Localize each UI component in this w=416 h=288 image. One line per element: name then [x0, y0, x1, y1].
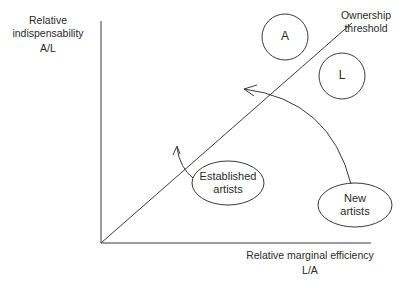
y-axis-label-line1: Relative	[4, 14, 92, 27]
node-established-line2: artists	[192, 183, 264, 196]
x-axis-label: Relative marginal efficiency	[230, 249, 390, 262]
node-established-line1: Established	[192, 170, 264, 183]
y-axis-label-line2: indispensability	[4, 27, 92, 40]
y-axis-unit: A/L	[4, 42, 92, 55]
node-established-label: Established artists	[192, 170, 264, 196]
ownership-threshold-line	[101, 23, 352, 243]
node-new-line2: artists	[320, 205, 390, 218]
x-axis-unit: L/A	[280, 264, 340, 277]
node-a-label: A	[270, 30, 300, 43]
threshold-label-line1: Ownership	[326, 9, 406, 22]
threshold-label: Ownership threshold	[326, 9, 406, 35]
y-axis-label: Relative indispensability	[4, 14, 92, 40]
arrow-established-head-icon	[173, 146, 180, 155]
node-new-line1: New	[320, 192, 390, 205]
threshold-label-line2: threshold	[326, 22, 406, 35]
node-new-label: New artists	[320, 192, 390, 218]
node-l-label: L	[327, 69, 357, 82]
